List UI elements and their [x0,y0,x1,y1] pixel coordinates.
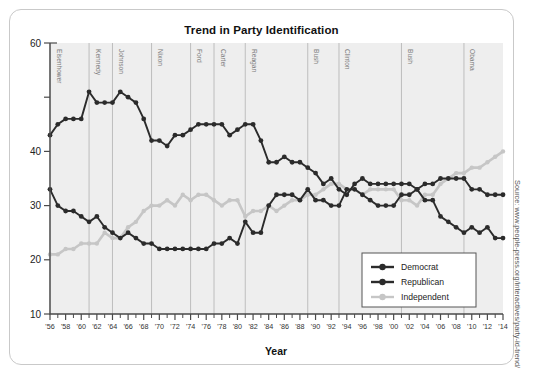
data-point [266,203,271,208]
data-point [87,89,92,94]
data-point [282,203,286,207]
data-point [407,198,411,202]
y-tick-label-60: 60 [30,38,42,49]
x-tick-label-1978: '78 [217,322,226,331]
data-point [235,241,240,246]
data-point [243,214,247,218]
legend-swatch-marker [379,279,385,285]
data-point [391,187,395,191]
data-point [126,95,131,100]
data-point [274,209,278,213]
data-point [219,241,224,246]
data-point [188,247,193,252]
president-label-carter-1977: Carter [220,49,227,68]
data-point [423,198,428,203]
data-point [430,182,435,187]
data-point [407,182,412,187]
x-tick-label-1996: '96 [358,322,367,331]
x-tick-label-1974: '74 [186,322,195,331]
data-point [251,230,256,235]
x-tick-label-1964: '64 [108,322,117,331]
data-point [321,187,325,191]
data-point [313,193,317,197]
data-point [383,203,388,208]
president-label-bush-2001: Bush [407,49,414,64]
president-label-kennedy-1961: Kennedy [94,49,102,76]
data-point [71,116,76,121]
data-point [235,198,239,202]
legend-label: Independent [401,292,449,302]
data-point [165,198,169,202]
data-point [94,100,99,105]
data-point [258,138,263,143]
president-label-nixon-1969: Nixon [157,49,164,66]
chart-legend: DemocratRepublicanIndependent [362,253,476,307]
data-point [149,138,154,143]
x-tick-label-2014: '14 [498,322,507,331]
data-point [157,203,161,207]
data-point [407,192,412,197]
x-tick-label-1958: '58 [61,322,70,331]
data-point [469,187,474,192]
data-point [337,203,342,208]
data-point [126,230,131,235]
data-point [438,176,443,181]
president-label-reagan-1981: Reagan [250,49,258,72]
data-point [102,100,107,105]
y-tick-label-20: 20 [30,254,42,265]
x-tick-label-1982: '82 [248,322,257,331]
data-point [79,241,83,245]
data-point [399,192,404,197]
data-point [376,182,381,187]
x-tick-label-1968: '68 [139,322,148,331]
data-point [305,165,310,170]
data-point [235,127,240,132]
data-point [227,133,232,138]
line-chart: EisenhowerKennedyJohnsonNixonFordCarterR… [10,10,515,366]
data-point [368,182,373,187]
x-tick-label-1992: '92 [326,322,335,331]
data-point [438,214,443,219]
data-point [423,182,428,187]
data-point [329,176,334,181]
data-point [462,171,466,175]
president-label-eisenhower-1956: Eisenhower [56,49,63,84]
data-point [477,165,481,169]
data-point [227,236,232,241]
data-point [149,203,153,207]
x-tick-label-2006: '06 [436,322,445,331]
data-point [290,192,295,197]
x-tick-label-1962: '62 [92,322,101,331]
data-point [87,219,92,224]
data-point [134,220,138,224]
legend-label: Democrat [401,262,439,272]
data-point [87,241,91,245]
x-tick-label-1980: '80 [233,322,242,331]
x-tick-label-2008: '08 [451,322,460,331]
data-point [399,198,403,202]
source-note: Source: www.people-press.org/interactive… [513,180,522,380]
data-point [71,247,75,251]
data-point [438,182,442,186]
data-point [180,247,185,252]
data-point [470,165,474,169]
data-point [204,193,208,197]
chart-plot-area: EisenhowerKennedyJohnsonNixonFordCarterR… [10,10,515,366]
data-point [212,122,217,127]
data-point [63,116,68,121]
data-point [173,247,178,252]
x-tick-label-1966: '66 [123,322,132,331]
legend-label: Republican [401,277,444,287]
data-point [79,214,84,219]
data-point [360,176,365,181]
data-point [298,198,303,203]
data-point [290,198,294,202]
data-point [95,241,99,245]
data-point [165,144,170,149]
data-point [454,176,459,181]
data-point [274,192,279,197]
data-point [313,198,318,203]
data-point [431,193,435,197]
data-point [142,209,146,213]
data-point [321,198,326,203]
